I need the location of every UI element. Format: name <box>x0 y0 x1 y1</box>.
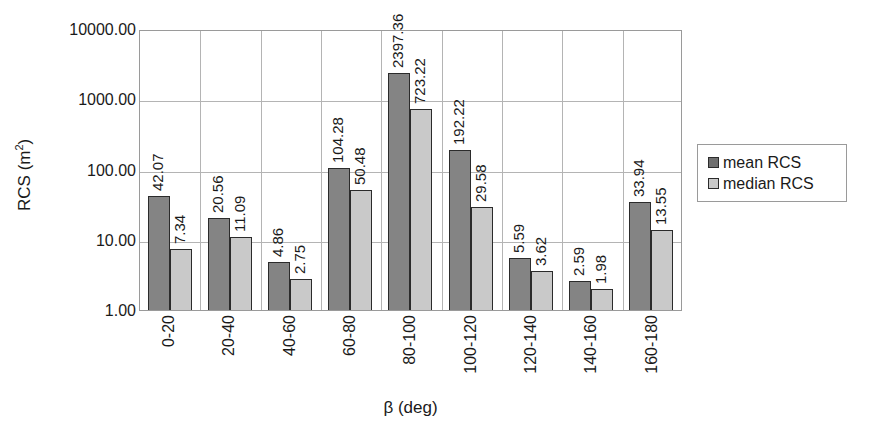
bar-group: 2.591.98 <box>561 31 621 310</box>
bar[interactable]: 50.48 <box>350 190 372 310</box>
bar-pair: 2397.36723.22 <box>380 31 440 310</box>
chart-figure: RCS (m2) 10000.001000.00100.0010.001.00 … <box>0 0 877 434</box>
bar[interactable]: 7.34 <box>170 249 192 310</box>
bar[interactable]: 2.75 <box>290 279 312 310</box>
bar-value-label: 723.22 <box>412 58 427 104</box>
bar-group: 42.077.34 <box>140 31 200 310</box>
x-axis-tick: 140-160 <box>561 311 621 399</box>
bar-value-label: 20.56 <box>210 175 225 213</box>
bar-value-label: 50.48 <box>352 148 367 186</box>
x-axis-tick: 60-80 <box>320 311 380 399</box>
x-axis-tick-labels: 0-2020-4040-6060-8080-100100-120120-1401… <box>139 311 682 399</box>
x-axis-tick: 100-120 <box>441 311 501 399</box>
x-axis-tick-label: 160-180 <box>644 315 660 374</box>
x-axis-tick: 40-60 <box>260 311 320 399</box>
bar[interactable]: 4.86 <box>268 262 290 310</box>
x-axis-tick-label: 60-80 <box>342 315 358 356</box>
bar[interactable]: 2.59 <box>569 281 591 310</box>
bar-value-label: 192.22 <box>451 99 466 145</box>
y-axis-tick-label: 1.00 <box>40 303 136 319</box>
plot-area: 42.077.3420.5611.094.862.75104.2850.4823… <box>139 30 682 311</box>
bar-value-label: 2397.36 <box>390 13 405 67</box>
bar-groups: 42.077.3420.5611.094.862.75104.2850.4823… <box>140 31 681 310</box>
bar[interactable]: 20.56 <box>208 218 230 310</box>
bar[interactable]: 104.28 <box>328 168 350 310</box>
y-axis-title-exponent: 2 <box>13 145 25 151</box>
bar-value-label: 2.75 <box>292 245 307 274</box>
bar-value-label: 42.07 <box>150 153 165 191</box>
bar-pair: 2.591.98 <box>561 31 621 310</box>
bar-value-label: 11.09 <box>232 195 247 231</box>
bar-group: 2397.36723.22 <box>380 31 440 310</box>
bar-value-label: 3.62 <box>533 237 548 266</box>
x-axis-tick: 160-180 <box>622 311 682 399</box>
bar-group: 104.2850.48 <box>320 31 380 310</box>
x-axis-title: β (deg) <box>139 398 682 418</box>
bar-value-label: 5.59 <box>511 223 526 252</box>
bar-pair: 20.5611.09 <box>200 31 260 310</box>
y-axis-tick-label: 1000.00 <box>40 92 136 108</box>
x-axis-tick-label: 100-120 <box>463 315 479 374</box>
y-axis-title: RCS (m2) <box>10 100 38 250</box>
x-axis-tick: 0-20 <box>139 311 199 399</box>
bar[interactable]: 723.22 <box>410 109 432 310</box>
bar-group: 4.862.75 <box>260 31 320 310</box>
x-axis-tick-label: 20-40 <box>221 315 237 356</box>
bar-pair: 4.862.75 <box>260 31 320 310</box>
x-axis-tick: 80-100 <box>380 311 440 399</box>
x-axis-tick-label: 140-160 <box>583 315 599 374</box>
bar[interactable]: 5.59 <box>509 258 531 311</box>
legend-swatch-mean <box>708 157 719 168</box>
bar-value-label: 104.28 <box>330 117 345 163</box>
bar[interactable]: 3.62 <box>531 271 553 310</box>
bar[interactable]: 11.09 <box>230 237 252 310</box>
bar-value-label: 33.94 <box>631 160 646 198</box>
bar[interactable]: 42.07 <box>148 196 170 310</box>
bar-group: 5.593.62 <box>501 31 561 310</box>
bar[interactable]: 192.22 <box>449 150 471 310</box>
y-axis-title-base: RCS (m <box>15 151 34 211</box>
x-axis-tick-label: 80-100 <box>402 315 418 365</box>
y-axis-tick-label: 10.00 <box>40 233 136 249</box>
legend-swatch-median <box>708 178 719 189</box>
bar-pair: 104.2850.48 <box>320 31 380 310</box>
bar-value-label: 29.58 <box>473 164 488 202</box>
bar-pair: 192.2229.58 <box>441 31 501 310</box>
bar[interactable]: 33.94 <box>629 202 651 310</box>
bar[interactable]: 2397.36 <box>388 73 410 310</box>
y-axis-tick-label: 100.00 <box>40 163 136 179</box>
bar-pair: 42.077.34 <box>140 31 200 310</box>
x-axis-tick-label: 40-60 <box>282 315 298 356</box>
x-axis-tick-label: 0-20 <box>161 315 177 347</box>
bar-pair: 33.9413.55 <box>621 31 681 310</box>
legend-label: mean RCS <box>723 154 801 172</box>
bar-group: 20.5611.09 <box>200 31 260 310</box>
bar[interactable]: 13.55 <box>651 230 673 310</box>
bar-group: 33.9413.55 <box>621 31 681 310</box>
y-axis-tick-label: 10000.00 <box>40 22 136 38</box>
legend-label: median RCS <box>723 175 814 193</box>
bar-pair: 5.593.62 <box>501 31 561 310</box>
bar-value-label: 2.59 <box>571 247 586 276</box>
chart-legend: mean RCSmedian RCS <box>697 144 847 202</box>
legend-item[interactable]: mean RCS <box>708 152 846 173</box>
bar-value-label: 4.86 <box>270 228 285 257</box>
bar[interactable]: 29.58 <box>471 207 493 310</box>
y-axis-title-tail: ) <box>15 139 34 145</box>
x-axis-tick: 120-140 <box>501 311 561 399</box>
x-axis-tick-label: 120-140 <box>523 315 539 374</box>
bar-value-label: 1.98 <box>593 255 608 284</box>
bar-value-label: 13.55 <box>653 188 668 226</box>
bar[interactable]: 1.98 <box>591 289 613 310</box>
x-axis-tick: 20-40 <box>199 311 259 399</box>
bar-group: 192.2229.58 <box>441 31 501 310</box>
legend-item[interactable]: median RCS <box>708 173 846 194</box>
bar-value-label: 7.34 <box>172 215 187 244</box>
y-axis-tick-labels: 10000.001000.00100.0010.001.00 <box>36 0 136 434</box>
